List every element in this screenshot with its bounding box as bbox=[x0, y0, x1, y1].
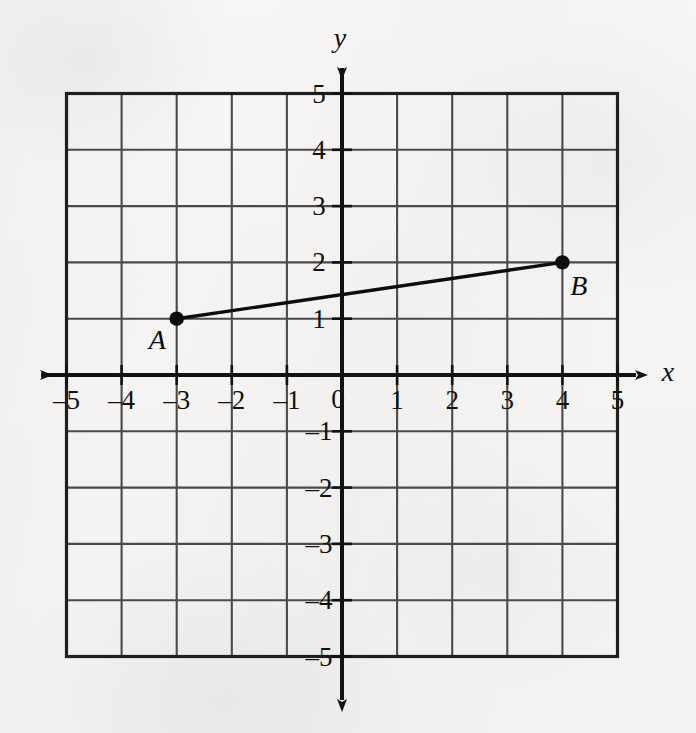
y-tick-label-neg2: –2 bbox=[306, 474, 333, 501]
x-axis-label: x bbox=[662, 358, 674, 386]
y-tick-label-neg4: –4 bbox=[306, 587, 333, 614]
x-tick-label-neg1: –1 bbox=[273, 387, 300, 414]
x-tick-label-pos5: 5 bbox=[611, 387, 625, 414]
y-tick-label-pos1: 1 bbox=[312, 305, 326, 332]
x-tick-label-pos4: 4 bbox=[556, 387, 570, 414]
y-tick-label-neg5: –5 bbox=[306, 643, 333, 670]
point-marker-b bbox=[555, 255, 569, 269]
y-tick-label-pos2: 2 bbox=[312, 249, 326, 276]
x-tick-label-origin: 0 bbox=[331, 386, 345, 413]
x-tick-label-pos3: 3 bbox=[501, 387, 515, 414]
y-tick-label-neg1: –1 bbox=[306, 418, 333, 445]
point-label-b: B bbox=[570, 272, 587, 300]
segment-layer bbox=[177, 262, 563, 318]
x-tick-label-neg2: –2 bbox=[218, 387, 245, 414]
coordinate-grid-svg bbox=[0, 0, 696, 733]
y-tick-label-pos4: 4 bbox=[312, 136, 326, 163]
y-axis-label: y bbox=[334, 24, 346, 52]
coordinate-plane-figure: –5–4–3–2–101234554321–1–2–3–4–5 AB x y bbox=[0, 0, 696, 733]
y-tick-label-neg3: –3 bbox=[306, 530, 333, 557]
x-tick-label-pos2: 2 bbox=[445, 387, 459, 414]
x-tick-label-neg3: –3 bbox=[163, 387, 190, 414]
x-tick-label-neg4: –4 bbox=[108, 387, 135, 414]
x-tick-label-pos1: 1 bbox=[390, 387, 404, 414]
x-tick-label-neg5: –5 bbox=[53, 387, 80, 414]
y-tick-label-pos5: 5 bbox=[312, 80, 326, 107]
point-label-a: A bbox=[149, 326, 166, 354]
plotted-segment bbox=[177, 262, 563, 318]
y-tick-label-pos3: 3 bbox=[312, 193, 326, 220]
point-marker-a bbox=[170, 312, 184, 326]
